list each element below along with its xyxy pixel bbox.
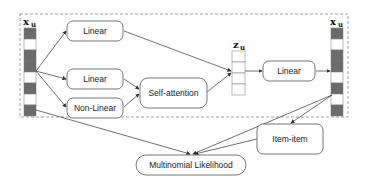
edge-linear-top-z <box>124 31 231 71</box>
input-vector-subscript: u <box>31 20 36 29</box>
latent-vector-cell <box>232 84 245 95</box>
output-vector-cell <box>331 83 343 94</box>
latent-vector-label: z <box>233 39 239 50</box>
edge-input-linear-top <box>36 31 66 71</box>
output-vector-cell <box>331 72 343 83</box>
node-linear-top: Linear <box>67 21 123 41</box>
input-vector-cell <box>24 50 36 61</box>
output-vector-cell <box>331 105 343 116</box>
output-vector-cell <box>331 94 343 105</box>
node-multinomial-label: Multinomial Likelihood <box>149 160 233 170</box>
output-vector-cell <box>331 39 343 50</box>
node-item-item-label: Item-item <box>272 134 307 144</box>
node-linear-mid: Linear <box>67 69 123 89</box>
input-vector-cell <box>24 72 36 83</box>
latent-vector-cell <box>232 73 245 84</box>
edge-attn-z <box>207 73 231 92</box>
input-vector-cell <box>24 83 36 94</box>
node-non-linear-label: Non-Linear <box>74 103 116 113</box>
output-vector-cell <box>331 28 343 39</box>
diagram-canvas: x u x u z u Linear Linear <box>0 0 365 183</box>
input-vector-label: x <box>23 16 30 27</box>
edge-input-linear-mid <box>36 71 66 79</box>
latent-vector: z u <box>232 39 245 95</box>
input-vector-cell <box>24 105 36 116</box>
node-multinomial: Multinomial Likelihood <box>136 155 246 175</box>
node-linear-out: Linear <box>263 61 315 81</box>
input-vector-cell <box>24 61 36 72</box>
input-vector-cell <box>24 94 36 105</box>
node-non-linear: Non-Linear <box>67 98 123 118</box>
node-linear-out-label: Linear <box>277 66 301 76</box>
edge-input-nonlinear <box>36 71 66 107</box>
node-item-item: Item-item <box>257 124 323 154</box>
edge-output-itemitem <box>291 95 332 123</box>
output-vector-cell <box>331 50 343 61</box>
latent-vector-cell <box>232 62 245 73</box>
latent-vector-subscript: u <box>240 43 245 52</box>
edge-nonlinear-attn <box>124 94 139 107</box>
input-vector: x u <box>23 16 36 116</box>
node-linear-top-label: Linear <box>83 26 107 36</box>
node-self-attention: Self-attention <box>140 78 207 108</box>
latent-vector-cell <box>232 51 245 62</box>
node-self-attention-label: Self-attention <box>148 88 198 98</box>
output-vector-cell <box>331 61 343 72</box>
output-vector-subscript: u <box>338 20 343 29</box>
node-linear-mid-label: Linear <box>83 74 107 84</box>
edge-linear-mid-attn <box>124 79 139 89</box>
input-vector-cell <box>24 28 36 39</box>
output-vector-label: x <box>330 16 337 27</box>
output-vector: x u <box>330 16 343 116</box>
edge-itemitem-multinomial <box>195 139 257 154</box>
input-vector-cell <box>24 39 36 50</box>
